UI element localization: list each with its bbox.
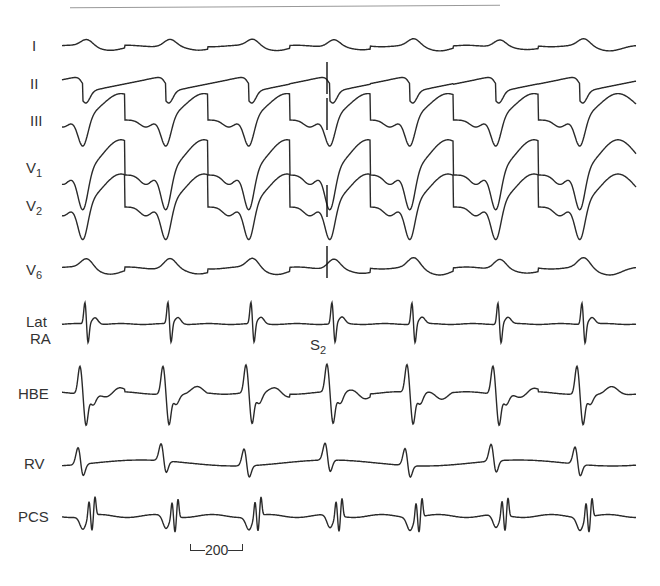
trace-pcs: [62, 497, 636, 533]
s2-main: S: [310, 336, 320, 353]
lead-label-pcs: PCS: [18, 509, 49, 524]
trace-rv: [62, 443, 636, 477]
s2-annotation: S2: [310, 336, 326, 356]
lead-label-v6: V6: [26, 262, 42, 281]
lead-label-v6-sub: 6: [36, 269, 42, 281]
trace-hbe: [62, 364, 636, 425]
scale-value: 200: [205, 542, 228, 558]
trace-i: [62, 39, 636, 51]
ecg-traces: [0, 0, 660, 586]
lead-label-v1-main: V: [26, 159, 36, 176]
trace-ii: [62, 78, 636, 104]
lead-label-lat-ra-1: Lat: [26, 314, 47, 329]
lead-label-v2-main: V: [26, 197, 36, 214]
lead-label-v2: V2: [26, 198, 42, 217]
lead-label-ii: II: [30, 76, 38, 91]
trace-v1: [62, 140, 636, 210]
lead-label-rv: RV: [24, 456, 45, 471]
lead-label-iii: III: [30, 113, 43, 128]
s2-sub: 2: [320, 344, 326, 356]
lead-label-v1-sub: 1: [36, 167, 42, 179]
lead-label-i: I: [32, 38, 36, 53]
scale-bar-label: 200: [190, 542, 243, 558]
trace-v6: [62, 258, 636, 275]
lead-label-v1: V1: [26, 160, 42, 179]
lead-label-hbe: HBE: [18, 386, 49, 401]
lead-label-v6-main: V: [26, 261, 36, 278]
trace-iii: [62, 94, 636, 146]
lead-label-lat-ra-2: RA: [30, 331, 51, 346]
trace-lat-ra: [62, 302, 636, 343]
lead-label-v2-sub: 2: [36, 205, 42, 217]
